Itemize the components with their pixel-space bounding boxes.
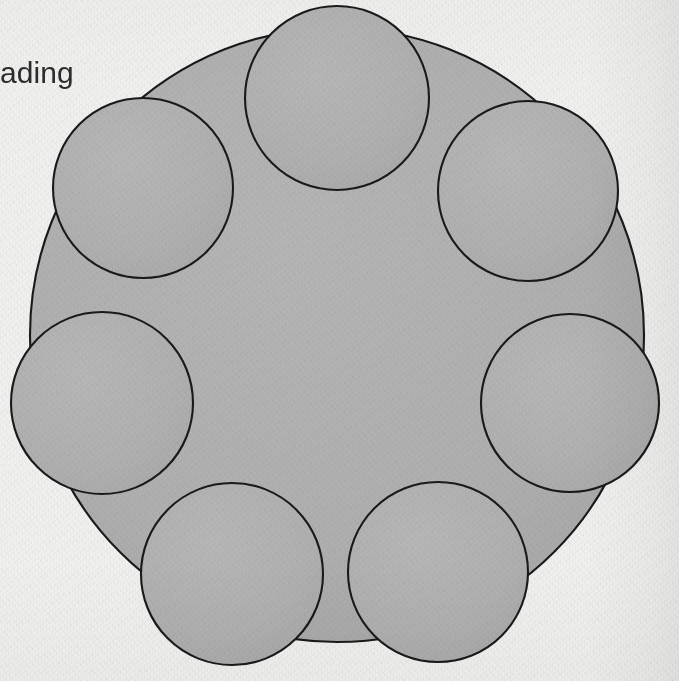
satellite-circle-upper-right (438, 101, 618, 281)
satellite-circle-upper-left (53, 98, 233, 278)
circle-cluster-figure (0, 0, 679, 681)
satellite-circle-left (11, 312, 193, 494)
satellite-circle-lower-right (348, 482, 528, 662)
figure-caption-fragment: ading (0, 58, 74, 88)
satellite-circle-right (481, 314, 659, 492)
satellite-circle-top (245, 6, 429, 190)
scanned-page: ading (0, 0, 679, 681)
figure-group (11, 6, 659, 665)
satellite-circle-lower-left (141, 483, 323, 665)
